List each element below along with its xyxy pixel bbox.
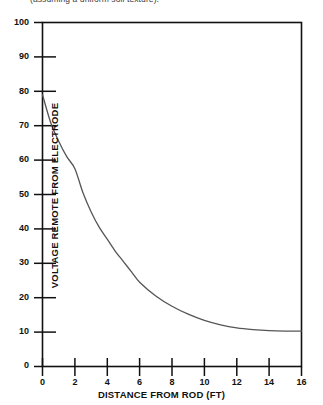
x-tick-label-14: 14 [259, 377, 279, 387]
y-tick-label-10: 10 [3, 326, 29, 336]
x-axis-ticks [43, 367, 302, 377]
y-tick-label-100: 100 [3, 17, 29, 27]
x-tick-label-4: 4 [97, 377, 117, 387]
y-tick-label-20: 20 [3, 292, 29, 302]
x-tick-label-16: 16 [292, 377, 312, 387]
y-tick-label-40: 40 [3, 223, 29, 233]
y-tick-label-30: 30 [3, 257, 29, 267]
y-axis-title: VOLTAGE REMOTE FROM ELECTRODE [49, 66, 60, 326]
y-tick-label-70: 70 [3, 120, 29, 130]
y-tick-label-80: 80 [3, 86, 29, 96]
x-tick-label-2: 2 [65, 377, 85, 387]
plot-border [43, 23, 302, 367]
y-tick-label-90: 90 [3, 51, 29, 61]
chart-container: 100 90 80 70 60 50 40 30 20 10 0 0 2 4 6… [0, 0, 323, 405]
x-tick-label-8: 8 [162, 377, 182, 387]
y-tick-label-0: 0 [3, 360, 29, 370]
x-tick-label-12: 12 [227, 377, 247, 387]
y-axis-ticks [34, 23, 43, 367]
y-tick-label-60: 60 [3, 154, 29, 164]
x-tick-label-6: 6 [130, 377, 150, 387]
x-axis-title: DISTANCE FROM ROD (FT) [0, 389, 323, 400]
x-tick-label-0: 0 [33, 377, 53, 387]
x-tick-label-10: 10 [194, 377, 214, 387]
y-tick-label-50: 50 [3, 189, 29, 199]
